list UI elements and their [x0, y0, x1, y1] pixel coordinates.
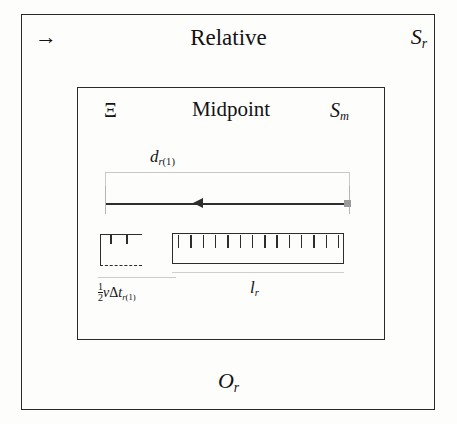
rod-ruler-tick	[227, 235, 228, 248]
rod-ruler-tick	[276, 235, 277, 248]
light-path-box	[100, 234, 142, 266]
sr-subscript: r	[422, 36, 427, 51]
rod-ruler-tick	[338, 235, 339, 248]
rod-length-label: lr	[250, 279, 259, 298]
rod-ruler	[172, 233, 344, 264]
midpoint-frame-symbol: Sm	[330, 100, 349, 123]
distance-extension-bracket	[105, 172, 350, 200]
rod-ruler-tick	[326, 235, 327, 248]
t-subscript-index: (1)	[126, 292, 136, 302]
diagram-canvas: → Relative Sr Or Ξ Midpoint Sm dr(1) 12ν…	[0, 0, 457, 424]
rod-ruler-tick	[289, 235, 290, 248]
distance-end-marker	[344, 200, 351, 207]
light-path-underline	[98, 277, 176, 278]
light-path-label: 12νΔtr(1)	[98, 282, 136, 304]
delta-symbol: Δ	[109, 285, 118, 300]
rod-ruler-tick	[313, 235, 314, 248]
rod-ruler-tick	[301, 235, 302, 248]
distance-left-tick	[105, 186, 106, 214]
lr-subscript: r	[255, 287, 259, 298]
rod-ruler-tick	[215, 235, 216, 248]
rod-ruler-tick	[240, 235, 241, 248]
dr-subscript-index: (1)	[163, 156, 175, 167]
light-path-tick	[110, 235, 112, 244]
rod-ruler-tick	[252, 235, 253, 248]
rod-underline	[172, 272, 344, 273]
distance-arrow-head-icon	[193, 198, 203, 208]
relative-frame-symbol: Sr	[411, 26, 427, 50]
light-path-tick	[126, 235, 128, 244]
sm-subscript: m	[340, 109, 349, 123]
or-subscript: r	[234, 380, 239, 395]
rod-ruler-tick	[178, 235, 179, 248]
observer-relative-symbol: Or	[0, 370, 457, 394]
rod-ruler-tick	[264, 235, 265, 248]
relative-frame-title: Relative	[0, 26, 457, 49]
distance-measure-label: dr(1)	[150, 148, 175, 167]
sr-base: S	[411, 24, 422, 49]
distance-arrow-line	[106, 203, 349, 205]
rod-ruler-tick	[203, 235, 204, 248]
or-base: O	[218, 368, 234, 393]
dr-base: d	[150, 147, 159, 166]
rod-ruler-tick	[190, 235, 191, 248]
sm-base: S	[330, 99, 340, 121]
